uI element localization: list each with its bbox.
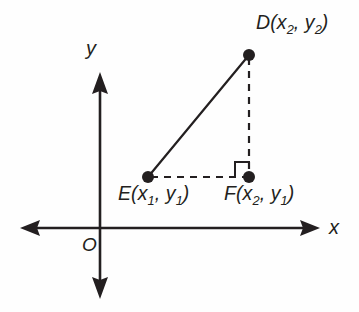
point-e-close-paren: ) — [183, 182, 190, 204]
y-axis-up-arrow-icon — [92, 72, 108, 94]
triangle-segments-group — [148, 55, 249, 177]
point-d-label: D(x2, y2) — [256, 13, 328, 37]
y-axis-down-arrow-icon — [92, 277, 108, 299]
point-d-open-paren: ( — [270, 11, 277, 33]
point-d-y-subscript: 2 — [315, 22, 322, 37]
point-d-y-var: y — [305, 11, 315, 33]
point-e-x-var: x — [138, 182, 148, 204]
point-f-y-subscript: 1 — [281, 193, 288, 208]
point-d-comma: , — [294, 11, 305, 33]
point-e-x-subscript: 1 — [148, 193, 155, 208]
point-f-x-var: x — [243, 182, 253, 204]
point-d-letter: D — [256, 11, 270, 33]
point-f-open-paren: ( — [236, 182, 243, 204]
y-axis-label: y — [86, 38, 96, 58]
figure-canvas — [0, 0, 359, 312]
point-e-y-subscript: 1 — [176, 193, 183, 208]
point-f-letter: F — [224, 182, 236, 204]
point-e-comma: , — [155, 182, 166, 204]
segment-ED-hypotenuse — [148, 55, 249, 177]
point-d-dot — [243, 49, 255, 61]
x-axis-left-arrow-icon — [20, 220, 40, 236]
point-e-y-var: y — [166, 182, 176, 204]
point-f-label: F(x2, y1) — [224, 184, 294, 208]
point-f-comma: , — [260, 182, 271, 204]
point-d-x-subscript: 2 — [287, 22, 294, 37]
x-axis-right-arrow-icon — [300, 220, 320, 236]
point-f-y-var: y — [271, 182, 281, 204]
point-d-x-var: x — [277, 11, 287, 33]
point-e-label: E(x1, y1) — [118, 184, 189, 208]
point-e-open-paren: ( — [131, 182, 138, 204]
origin-label: O — [82, 235, 97, 254]
x-axis-label: x — [329, 217, 339, 237]
point-f-close-paren: ) — [288, 182, 295, 204]
coordinate-plane-figure: y x O D(x2, y2) E(x1, y1) F(x2, y1) — [0, 0, 359, 312]
point-e-letter: E — [118, 182, 131, 204]
point-d-close-paren: ) — [322, 11, 329, 33]
point-f-x-subscript: 2 — [252, 193, 259, 208]
